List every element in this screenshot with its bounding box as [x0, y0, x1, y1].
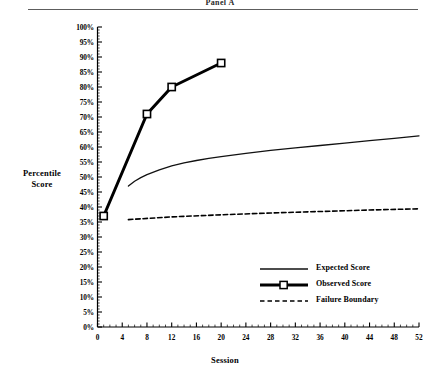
data-point-marker [100, 212, 107, 219]
series-line [104, 63, 221, 216]
legend-key-failure-icon [258, 294, 310, 308]
legend-item-expected: Expected Score [258, 262, 428, 278]
legend-label-observed: Observed Score [316, 279, 371, 288]
legend-key-observed-icon [258, 278, 310, 292]
data-point-marker [218, 59, 225, 66]
legend-item-observed: Observed Score [258, 278, 428, 294]
legend-label-expected: Expected Score [316, 263, 370, 272]
legend: Expected Score Observed Score Failure Bo… [258, 262, 428, 310]
legend-item-failure: Failure Boundary [258, 294, 428, 310]
figure-panel: Panel A Percentile Score Session 0%5%10%… [0, 0, 440, 378]
data-point-marker [168, 83, 175, 90]
series-line [128, 209, 419, 220]
legend-key-expected-icon [258, 262, 310, 276]
legend-label-failure: Failure Boundary [316, 295, 379, 304]
series-line [128, 136, 419, 186]
plot-area [0, 0, 440, 378]
data-series [100, 59, 419, 219]
data-point-marker [143, 110, 150, 117]
